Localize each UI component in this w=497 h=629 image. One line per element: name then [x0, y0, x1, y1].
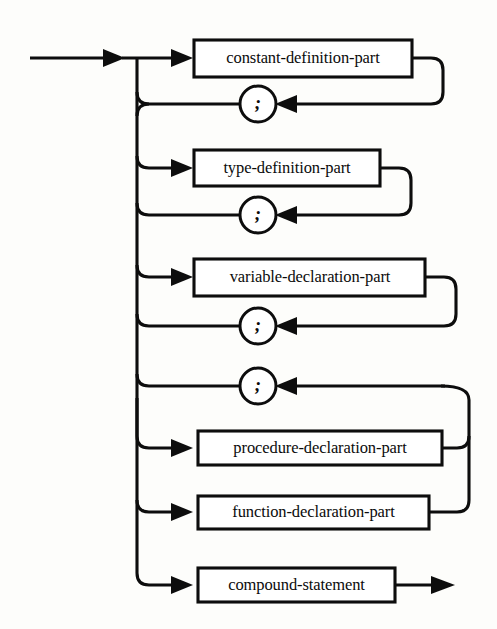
branch-function-declaration-part — [137, 500, 193, 521]
entry-arrow — [30, 49, 193, 67]
node-semicolon-2[interactable]: ; — [240, 197, 276, 233]
label-semicolon-1: ; — [255, 92, 261, 113]
branch-semicolon-4 — [137, 374, 445, 395]
label-type-definition-part: type-definition-part — [223, 158, 351, 177]
label-variable-declaration-part: variable-declaration-part — [230, 267, 391, 286]
node-semicolon-1[interactable]: ; — [240, 86, 276, 122]
node-type-definition-part[interactable]: type-definition-part — [194, 150, 380, 186]
node-function-declaration-part[interactable]: function-declaration-part — [198, 496, 429, 529]
label-semicolon-3: ; — [255, 314, 261, 335]
node-procedure-declaration-part[interactable]: procedure-declaration-part — [198, 431, 442, 465]
node-compound-statement[interactable]: compound-statement — [198, 568, 395, 602]
label-constant-definition-part: constant-definition-part — [226, 48, 380, 67]
node-constant-definition-part[interactable]: constant-definition-part — [194, 40, 412, 77]
railroad-diagram-canvas: constant-definition-part ; type-definiti… — [0, 0, 497, 629]
exit-arrow — [395, 576, 455, 594]
branch-procedure-declaration-part — [137, 398, 193, 457]
node-semicolon-4[interactable]: ; — [240, 368, 276, 404]
label-compound-statement: compound-statement — [228, 575, 365, 594]
node-semicolon-3[interactable]: ; — [240, 308, 276, 344]
label-semicolon-2: ; — [255, 203, 261, 224]
railroad-diagram: constant-definition-part ; type-definiti… — [0, 0, 497, 629]
node-variable-declaration-part[interactable]: variable-declaration-part — [194, 259, 425, 296]
label-function-declaration-part: function-declaration-part — [232, 502, 395, 521]
label-semicolon-4: ; — [255, 374, 261, 395]
label-procedure-declaration-part: procedure-declaration-part — [233, 438, 407, 457]
